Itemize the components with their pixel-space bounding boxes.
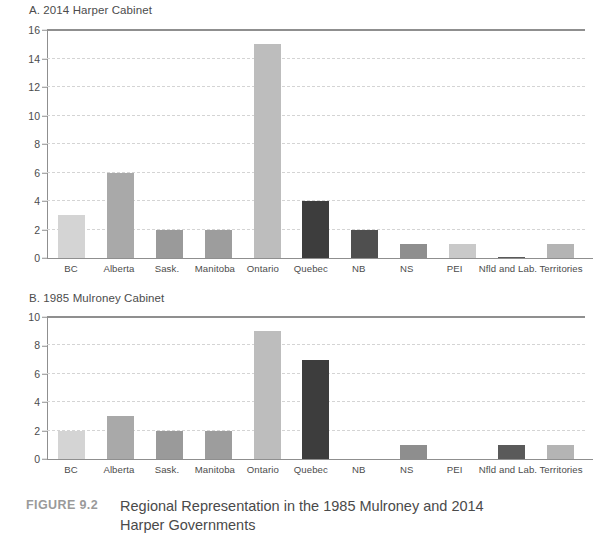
bar-slot	[194, 317, 243, 459]
x-tick-label: NB	[335, 464, 383, 475]
x-tick-label: Quebec	[287, 263, 335, 274]
panel-a-x-axis-line	[47, 258, 593, 259]
x-tick-label: NB	[335, 263, 383, 274]
bar	[107, 173, 134, 259]
bar-slot	[145, 30, 194, 258]
x-tick-label: Ontario	[239, 263, 287, 274]
panel-b-x-axis-line	[47, 459, 593, 460]
x-tick-label: Territories	[537, 263, 585, 274]
x-tick-label: BC	[47, 263, 95, 274]
bar	[351, 230, 378, 259]
y-tick-label: 12	[28, 82, 47, 93]
y-tick-label: 14	[28, 53, 47, 64]
figure-container: A. 2014 Harper Cabinet 0246810121416 BCA…	[0, 0, 593, 544]
bar	[205, 431, 232, 459]
bar	[449, 244, 476, 258]
figure-number: FIGURE 9.2	[26, 497, 98, 512]
bar-slot	[438, 30, 487, 258]
x-tick-label: Manitoba	[191, 464, 239, 475]
bar	[498, 445, 525, 459]
y-tick-label: 8	[34, 139, 47, 150]
y-tick-label: 10	[28, 312, 47, 323]
panel-a-x-tick-labels: BCAlbertaSask.ManitobaOntarioQuebecNBNSP…	[47, 263, 585, 274]
y-tick-label: 0	[34, 454, 47, 465]
x-tick-label: Quebec	[287, 464, 335, 475]
x-tick-label: Manitoba	[191, 263, 239, 274]
y-tick-label: 10	[28, 110, 47, 121]
bar-slot	[47, 317, 96, 459]
panel-a-title: A. 2014 Harper Cabinet	[29, 4, 152, 16]
bar	[400, 445, 427, 459]
bar-slot	[194, 30, 243, 258]
x-tick-label: Nfld and Lab.	[479, 464, 537, 475]
bar-slot	[389, 317, 438, 459]
panel-b-bars	[47, 317, 585, 459]
bar-slot	[340, 317, 389, 459]
bar	[156, 431, 183, 459]
panel-b-x-tick-labels: BCAlbertaSask.ManitobaOntarioQuebecNBNSP…	[47, 464, 585, 475]
bar	[547, 445, 574, 459]
y-tick-label: 2	[34, 224, 47, 235]
y-tick-label: 4	[34, 397, 47, 408]
chart-panel-b: B. 1985 Mulroney Cabinet 0246810 BCAlber…	[0, 292, 593, 488]
bar	[400, 244, 427, 258]
bar-slot	[243, 317, 292, 459]
y-tick-label: 2	[34, 425, 47, 436]
bar	[58, 215, 85, 258]
x-tick-label: Ontario	[239, 464, 287, 475]
x-tick-label: Territories	[537, 464, 585, 475]
x-tick-label: Nfld and Lab.	[479, 263, 537, 274]
y-tick-label: 16	[28, 25, 47, 36]
panel-b-plot-area: 0246810	[47, 317, 585, 459]
bar	[254, 44, 281, 258]
bar-slot	[536, 30, 585, 258]
panel-a-plot-area: 0246810121416	[47, 30, 585, 258]
bar-slot	[145, 317, 194, 459]
bar-slot	[340, 30, 389, 258]
bar-slot	[487, 30, 536, 258]
x-tick-label: NS	[383, 263, 431, 274]
x-tick-label: Alberta	[95, 464, 143, 475]
panel-b-title: B. 1985 Mulroney Cabinet	[29, 292, 164, 304]
y-tick-label: 0	[34, 253, 47, 264]
bar	[302, 360, 329, 459]
bar-slot	[47, 30, 96, 258]
bar	[302, 201, 329, 258]
x-tick-label: PEI	[431, 263, 479, 274]
bar-slot	[243, 30, 292, 258]
y-tick-label: 8	[34, 340, 47, 351]
panel-a-bars	[47, 30, 585, 258]
bar-slot	[536, 317, 585, 459]
bar	[254, 331, 281, 459]
bar-slot	[96, 317, 145, 459]
bar	[547, 244, 574, 258]
bar-slot	[96, 30, 145, 258]
x-tick-label: Alberta	[95, 263, 143, 274]
bar-slot	[487, 317, 536, 459]
figure-caption: FIGURE 9.2 Regional Representation in th…	[26, 497, 586, 535]
x-tick-label: NS	[383, 464, 431, 475]
bar-slot	[292, 30, 341, 258]
x-tick-label: Sask.	[143, 263, 191, 274]
x-tick-label: Sask.	[143, 464, 191, 475]
bar-slot	[389, 30, 438, 258]
bar	[205, 230, 232, 259]
bar	[156, 230, 183, 259]
figure-caption-text: Regional Representation in the 1985 Mulr…	[120, 497, 520, 535]
bar-slot	[438, 317, 487, 459]
x-tick-label: PEI	[431, 464, 479, 475]
bar	[107, 416, 134, 459]
y-tick-label: 6	[34, 369, 47, 380]
bar	[58, 431, 85, 459]
bar-slot	[292, 317, 341, 459]
y-tick-label: 6	[34, 167, 47, 178]
x-tick-label: BC	[47, 464, 95, 475]
chart-panel-a: A. 2014 Harper Cabinet 0246810121416 BCA…	[0, 4, 593, 289]
y-tick-label: 4	[34, 196, 47, 207]
